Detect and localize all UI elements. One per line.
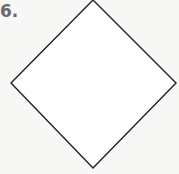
rhombus-figure (0, 0, 179, 174)
rhombus-shape (11, 0, 176, 168)
